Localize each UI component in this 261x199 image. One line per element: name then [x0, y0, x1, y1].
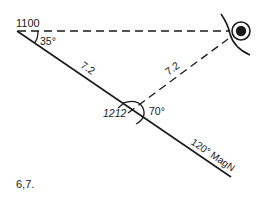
angle-70-label: 70° [149, 105, 165, 117]
angle-arc-35 [34, 31, 38, 43]
course-label: 120° MagN [189, 136, 237, 173]
navigation-diagram: 1100 35° 7.2 7.2 1212 70° 120° MagN 6,7. [0, 0, 261, 199]
fix-symbol-dot [236, 26, 246, 36]
figure-label: 6,7. [16, 178, 34, 190]
start-time-label: 1100 [16, 17, 40, 29]
course-line [17, 31, 231, 177]
angle-35-label: 35° [40, 35, 56, 47]
return-line-dashed [128, 39, 228, 113]
fix-time-label: 1212 [103, 107, 127, 119]
return-distance-label: 7.2 [163, 59, 182, 77]
